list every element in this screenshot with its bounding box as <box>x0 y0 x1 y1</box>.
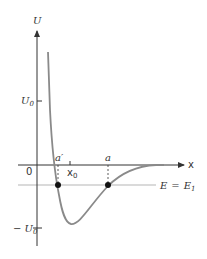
neg-u0-label: − U0 <box>13 223 38 236</box>
y-axis-label: U <box>33 15 42 26</box>
x0-label: x0 <box>67 167 77 180</box>
x-axis-label: x <box>188 159 194 170</box>
a-prime-label: a′ <box>55 152 64 163</box>
a-label: a <box>105 152 111 163</box>
turning-point-a-dot <box>105 182 111 188</box>
energy-level-label: E=E1 <box>159 180 195 193</box>
origin-label: 0 <box>26 166 32 177</box>
potential-energy-diagram: U x 0 U0 − U0 x0 a′ a E=E1 <box>0 0 207 259</box>
turning-point-a-prime-dot <box>55 182 61 188</box>
u0-label: U0 <box>21 95 34 108</box>
potential-curve <box>48 52 164 224</box>
